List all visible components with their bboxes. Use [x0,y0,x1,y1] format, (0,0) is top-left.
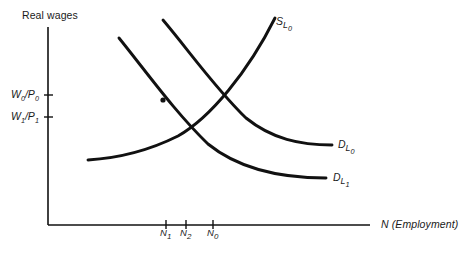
labour-market-diagram: Real wages N (Employment) W0/P0 W1/P1 N1… [0,0,461,253]
x-tick-label-n1-base: N [160,227,167,238]
x-tick-label-n2-sub: 2 [187,232,191,241]
x-tick-label-n2: N2 [180,228,191,241]
x-tick-label-n0: N0 [207,228,218,241]
curve-label-s-l0-subsub: 0 [288,24,292,33]
curve-label-d-l1-subsub: 1 [345,180,349,189]
supply-curve-s-l0 [88,18,275,160]
curve-label-d-l1-base: D [333,171,341,183]
y-tick-label-w1p1-sub2: 1 [35,116,39,125]
curve-label-d-l1: DL1 [333,172,350,188]
y-axis-title: Real wages [22,10,78,21]
y-tick-label-w0p0-den: P [28,88,35,100]
y-tick-label-w1p1-sub1: 1 [21,116,25,125]
curve-label-d-l0-sub: L0 [346,143,355,153]
x-tick-label-n2-base: N [180,227,187,238]
x-tick-label-n0-sub: 0 [214,232,218,241]
diagram-canvas [0,0,461,253]
curve-label-d-l0-base: D [338,138,346,150]
y-tick-label-w0p0: W0/P0 [11,89,39,100]
curve-label-d-l0-subsub: 0 [350,147,354,156]
demand-curve-d-l1 [119,38,326,178]
x-tick-label-n1: N1 [160,228,171,241]
curve-label-s-l0-sub: L0 [283,20,292,30]
x-tick-label-n0-base: N [207,227,214,238]
curve-label-d-l0: DL0 [338,139,355,155]
demand-curve-d-l0 [163,20,332,145]
y-tick-label-w1p1: W1/P1 [11,111,39,122]
x-tick-label-n1-sub: 1 [167,232,171,241]
y-tick-label-w0p0-base: W [11,88,21,100]
curve-label-s-l0-base: S [276,15,283,27]
curve-label-s-l0: SL0 [276,16,292,32]
y-tick-label-w1p1-den: P [28,110,35,122]
y-tick-label-w0p0-sub2: 0 [35,94,39,103]
x-axis-title: N (Employment) [381,219,458,230]
y-tick-label-w1p1-base: W [11,110,21,122]
marker-dot-icon [160,97,165,102]
y-tick-label-w0p0-sub1: 0 [21,94,25,103]
curve-label-d-l1-sub: L1 [341,176,350,186]
